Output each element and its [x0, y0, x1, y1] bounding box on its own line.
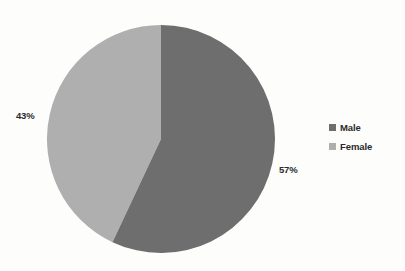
- chart-legend: Male Female: [329, 119, 401, 157]
- pie-data-label-female: 43%: [16, 110, 34, 121]
- legend-label-male: Male: [340, 122, 361, 133]
- legend-item-male[interactable]: Male: [329, 119, 401, 136]
- legend-swatch-male-icon: [329, 124, 336, 131]
- pie-data-label-male: 57%: [279, 164, 297, 175]
- legend-item-female[interactable]: Female: [329, 138, 401, 155]
- legend-label-female: Female: [340, 141, 372, 152]
- pie-chart-svg: [47, 25, 275, 253]
- pie-chart-figure: 43% 57% Male Female: [0, 0, 405, 271]
- legend-swatch-female-icon: [329, 143, 336, 150]
- pie-chart-plot-area: [47, 25, 275, 253]
